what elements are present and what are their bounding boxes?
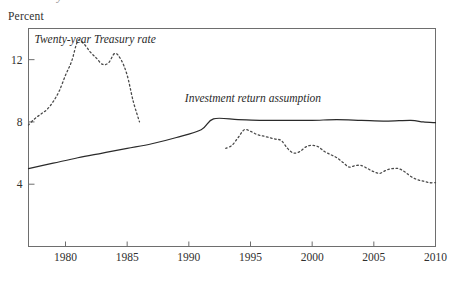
data-series <box>29 40 436 183</box>
x-tick-label: 1990 <box>177 251 200 263</box>
plot-frame <box>29 29 436 247</box>
x-tick-label: 1985 <box>116 251 139 263</box>
series-line-1 <box>29 118 436 168</box>
x-tick-label: 1980 <box>54 251 77 263</box>
x-tick-label: 1995 <box>239 251 262 263</box>
series-annotations: Twenty-year Treasury rateInvestment retu… <box>34 33 321 105</box>
x-tick-label: 2000 <box>301 251 324 263</box>
series-annotation-1: Investment return assumption <box>184 92 322 105</box>
axis-ticks <box>29 60 436 247</box>
y-tick-label: 4 <box>17 178 23 190</box>
figure-container: y Percent 198019851990199520002005201048… <box>0 0 455 281</box>
y-tick-label: 12 <box>11 54 23 66</box>
series-line-0 <box>29 40 140 125</box>
line-chart: 19801985199019952000200520104812 Twenty-… <box>0 0 455 281</box>
x-tick-label: 2005 <box>362 251 385 263</box>
x-tick-label: 2010 <box>424 251 447 263</box>
series-annotation-0: Twenty-year Treasury rate <box>34 33 155 46</box>
y-tick-label: 8 <box>17 116 23 128</box>
series-line-0 <box>226 129 436 182</box>
